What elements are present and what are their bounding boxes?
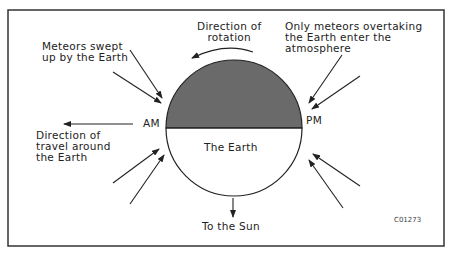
- travel-label: Direction of travel around the Earth: [36, 130, 111, 163]
- rotation-label: Direction of rotation: [197, 21, 262, 43]
- sun-label: To the Sun: [202, 221, 260, 232]
- am-label: AM: [143, 118, 160, 129]
- overtaking-label: Only meteors overtaking the Earth enter …: [285, 21, 422, 54]
- pm-label: PM: [306, 115, 322, 126]
- figure-id-label: C01273: [394, 215, 421, 226]
- earth-label: The Earth: [204, 142, 258, 153]
- swept-label: Meteors swept up by the Earth: [42, 41, 128, 63]
